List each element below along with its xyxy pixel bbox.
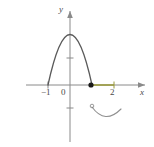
graph-figure: −1 0 2 y x (0, 0, 154, 147)
x-tick-label-two: 2 (110, 88, 115, 97)
faint-arc-curve (92, 107, 121, 117)
root-point-filled (88, 82, 93, 87)
y-axis-label: y (59, 5, 63, 14)
coordinate-plot-svg (0, 0, 154, 147)
x-tick-label-neg1: −1 (41, 88, 51, 97)
y-axis-arrow-icon (67, 11, 73, 18)
x-tick-label-zero: 0 (61, 88, 66, 97)
x-axis-label: x (140, 88, 144, 97)
